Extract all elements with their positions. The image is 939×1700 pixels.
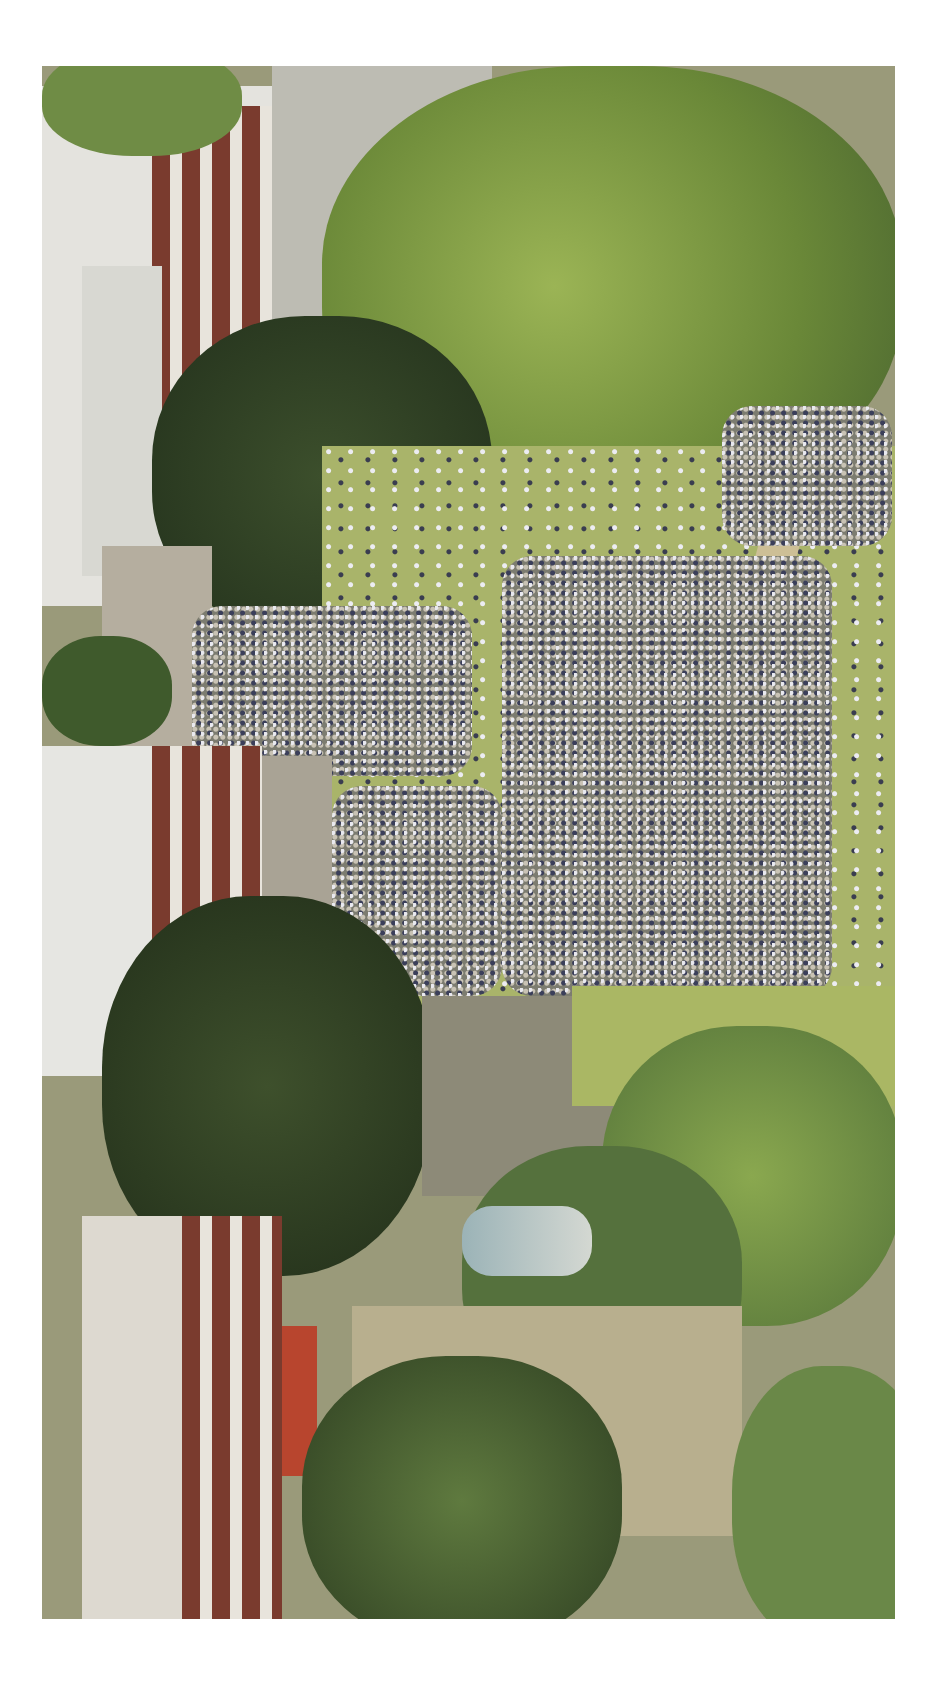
aerial-photo — [42, 66, 895, 1619]
crowd-main — [502, 556, 832, 996]
tree-bottom — [302, 1356, 622, 1619]
brick-facade-bottom — [182, 1216, 282, 1619]
tree-left-small — [42, 636, 172, 746]
crowd-right — [722, 406, 892, 546]
tree-bottom-right — [732, 1366, 895, 1619]
statue — [462, 1206, 592, 1276]
roof-top-left — [82, 266, 162, 576]
tree-top-left — [42, 66, 242, 156]
